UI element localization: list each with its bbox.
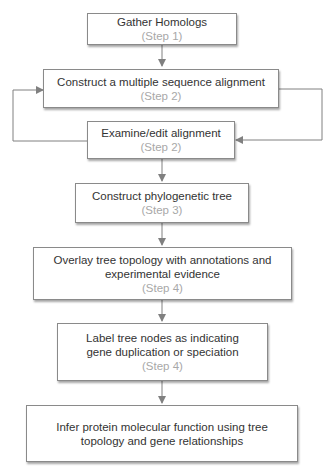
node-gather-homologs: Gather Homologs (Step 1) xyxy=(87,13,237,45)
node-label-tree-nodes: Label tree nodes as indicating gene dupl… xyxy=(57,323,268,381)
node-title: Label tree nodes as indicating gene dupl… xyxy=(72,331,253,359)
node-step: (Step 2) xyxy=(141,140,182,154)
node-step: (Step 3) xyxy=(142,203,183,217)
node-title: Gather Homologs xyxy=(117,15,207,29)
node-step: (Step 4) xyxy=(142,281,183,295)
node-infer-function: Infer protein molecular function using t… xyxy=(26,405,298,462)
node-step: (Step 2) xyxy=(141,89,182,103)
node-construct-tree: Construct phylogenetic tree (Step 3) xyxy=(75,183,249,223)
node-step: (Step 4) xyxy=(142,359,183,373)
node-title: Overlay tree topology with annotations a… xyxy=(44,253,281,281)
node-title: Examine/edit alignment xyxy=(101,126,221,140)
node-title: Construct phylogenetic tree xyxy=(92,189,232,203)
node-construct-msa: Construct a multiple sequence alignment … xyxy=(43,69,279,108)
node-overlay-topology: Overlay tree topology with annotations a… xyxy=(33,247,292,300)
node-examine-edit-alignment: Examine/edit alignment (Step 2) xyxy=(87,121,235,159)
node-title: Infer protein molecular function using t… xyxy=(55,420,269,448)
node-step: (Step 1) xyxy=(142,29,183,43)
node-title: Construct a multiple sequence alignment xyxy=(57,75,265,89)
